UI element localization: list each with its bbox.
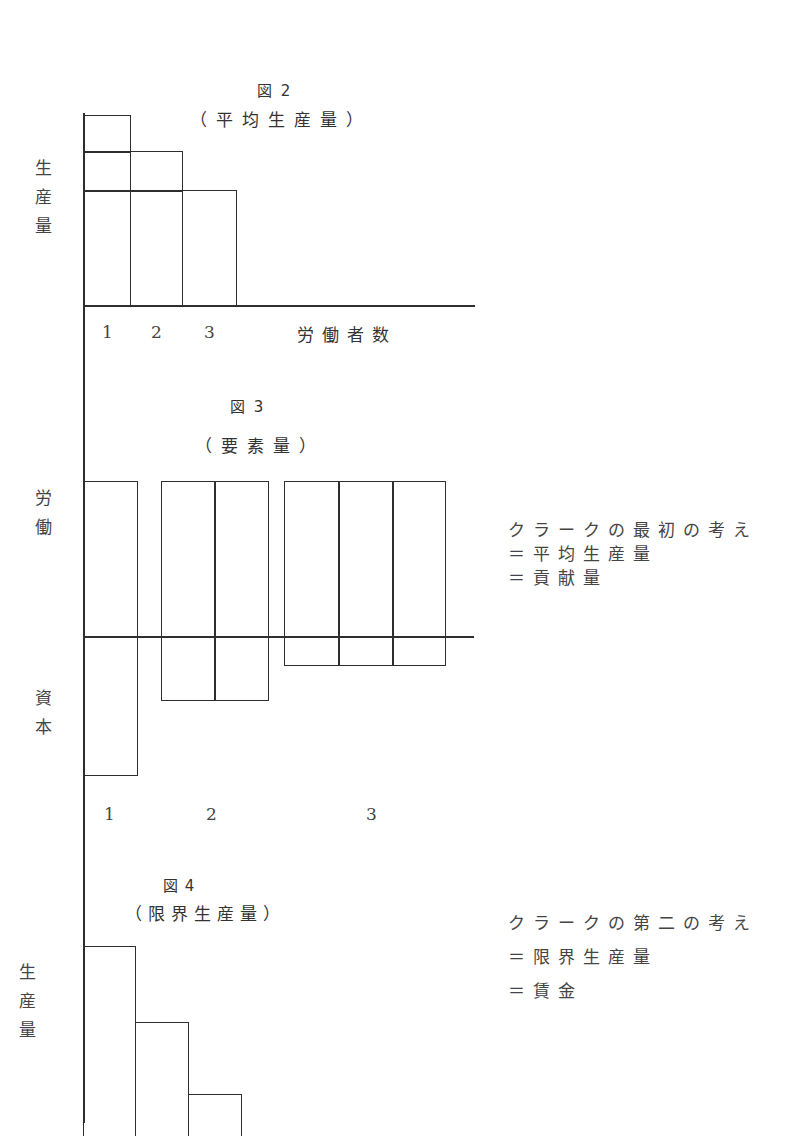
- figure-3-capital-label: 資 本: [32, 684, 54, 742]
- fig3-group-3-divider-2: [392, 481, 394, 666]
- fig4-bar-3: [188, 1094, 242, 1136]
- figure-4-subtitle: （限界生産量）: [125, 900, 286, 925]
- fig2-bar-3: [182, 190, 237, 306]
- fig3-x-tick-2: 2: [206, 804, 217, 824]
- note-first-idea: クラークの最初の考え ＝平均生産量 ＝貢献量: [508, 518, 758, 590]
- fig2-level-line-2: [83, 151, 131, 153]
- fig4-bar-2: [135, 1022, 189, 1136]
- fig2-x-tick-3: 3: [204, 322, 215, 342]
- figure-3-subtitle: （要素量）: [195, 432, 325, 457]
- figure-4-title: 図 4: [163, 874, 195, 895]
- figure-3-title: 図 3: [230, 395, 265, 416]
- figure-2-title: 図 2: [257, 79, 292, 100]
- fig4-bar-1: [83, 946, 136, 1136]
- fig2-bar-1: [83, 115, 131, 306]
- figure-2-subtitle: （平均生産量）: [190, 106, 372, 131]
- figure-4-y-label: 生 産 量: [16, 958, 38, 1045]
- fig3-group-3: [284, 481, 446, 666]
- figure-3-labor-label: 労 働: [32, 484, 54, 542]
- fig3-group-1: [83, 481, 138, 776]
- fig3-group-2-divider: [214, 481, 216, 701]
- figure-2-y-label: 生 産 量: [32, 154, 54, 241]
- fig3-x-tick-3: 3: [366, 804, 377, 824]
- fig2-bar-2: [130, 151, 183, 306]
- note-second-idea: クラークの第二の考え ＝限界生産量 ＝賃金: [508, 906, 758, 1008]
- fig2-x-axis: [83, 305, 475, 307]
- fig2-level-line-3: [83, 190, 183, 192]
- fig3-x-tick-1: 1: [104, 804, 115, 824]
- fig2-x-label: 労働者数: [297, 321, 397, 346]
- fig3-group-3-divider-1: [338, 481, 340, 666]
- fig2-x-tick-1: 1: [102, 322, 113, 342]
- fig3-x-axis: [83, 636, 474, 638]
- fig2-x-tick-2: 2: [151, 322, 162, 342]
